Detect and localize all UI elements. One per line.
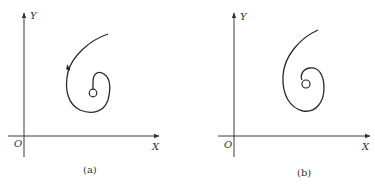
panel-a: Y O X (a) bbox=[8, 10, 160, 175]
origin-label: O bbox=[14, 138, 22, 149]
caption-b: (b) bbox=[297, 167, 311, 178]
x-axis-label: X bbox=[361, 141, 370, 152]
figure: Y O X (a) Y O X (b) bbox=[0, 0, 375, 187]
x-axis-label: X bbox=[151, 141, 160, 152]
y-axis-label: Y bbox=[240, 11, 248, 22]
spiral-curve bbox=[283, 30, 324, 111]
equilibrium-point bbox=[302, 80, 310, 88]
origin-label: O bbox=[224, 139, 232, 150]
equilibrium-point bbox=[89, 89, 97, 97]
panel-b: Y O X (b) bbox=[218, 11, 370, 178]
spiral-curve bbox=[67, 34, 110, 112]
y-axis-label: Y bbox=[30, 10, 38, 21]
caption-a: (a) bbox=[83, 164, 97, 175]
